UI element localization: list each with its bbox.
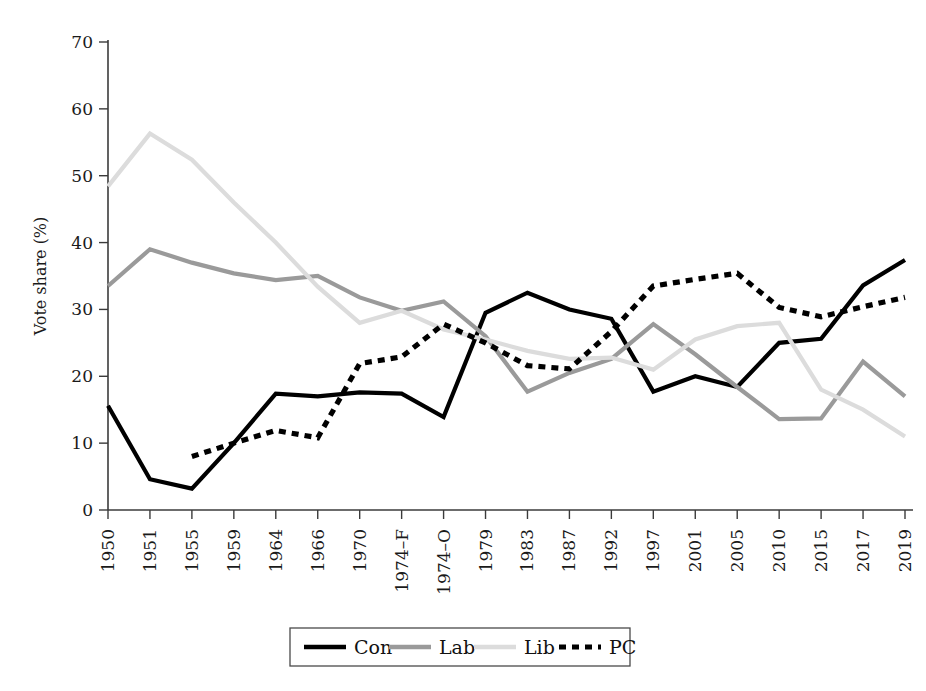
series-line-con [108, 260, 905, 489]
y-tick-label: 30 [71, 299, 93, 319]
x-tick-label: 2001 [685, 529, 705, 572]
y-tick-label: 40 [71, 233, 93, 253]
y-tick-label: 70 [71, 32, 93, 52]
x-axis: 19501951195519591964196619701974–F1974–O… [98, 510, 915, 595]
legend-label-pc[interactable]: PC [609, 636, 636, 658]
x-tick-label: 1983 [517, 529, 537, 572]
legend-label-con[interactable]: Con [354, 636, 392, 658]
x-tick-label: 2019 [895, 529, 915, 572]
y-tick-label: 10 [71, 433, 93, 453]
x-tick-label: 2005 [727, 529, 747, 572]
chart-page: 010203040506070 195019511955195919641966… [0, 0, 926, 691]
x-tick-label: 1974–F [392, 529, 412, 593]
x-tick-label: 1992 [601, 529, 621, 572]
series-line-lib [108, 134, 905, 437]
y-axis-title: Vote share (%) [31, 217, 50, 337]
series-lines [108, 134, 905, 489]
x-tick-label: 1950 [98, 529, 118, 572]
x-tick-label: 2017 [853, 529, 873, 572]
x-tick-label: 1951 [140, 529, 160, 572]
x-tick-label: 1966 [308, 529, 328, 572]
y-tick-label: 20 [71, 366, 93, 386]
x-tick-label: 1997 [643, 529, 663, 572]
x-tick-label: 2010 [769, 529, 789, 572]
legend-label-lib[interactable]: Lib [524, 636, 555, 658]
y-tick-label: 50 [71, 166, 93, 186]
x-tick-label: 1964 [266, 529, 286, 572]
vote-share-line-chart: 010203040506070 195019511955195919641966… [0, 0, 926, 691]
x-tick-label: 2015 [811, 529, 831, 572]
x-tick-label: 1987 [559, 529, 579, 572]
y-tick-label: 60 [71, 99, 93, 119]
chart-container: 010203040506070 195019511955195919641966… [0, 0, 926, 691]
y-tick-label: 0 [82, 500, 93, 520]
x-tick-label: 1959 [224, 529, 244, 572]
y-axis: 010203040506070 [71, 32, 108, 520]
legend-label-lab[interactable]: Lab [439, 636, 475, 658]
x-tick-label: 1974–O [434, 529, 454, 595]
x-tick-label: 1979 [476, 529, 496, 572]
x-tick-label: 1970 [350, 529, 370, 572]
x-tick-label: 1955 [182, 529, 202, 572]
chart-legend: ConLabLibPC [290, 628, 636, 666]
